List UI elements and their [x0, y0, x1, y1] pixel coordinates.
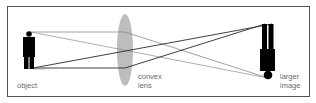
lens-label-line1: convex	[138, 72, 162, 81]
object-label: object	[17, 81, 37, 90]
image-label-line1: larger	[280, 72, 299, 81]
object-figure	[23, 31, 35, 69]
image-figure	[260, 24, 275, 79]
image-label-line2: image	[280, 81, 300, 90]
lens-label-line2: lens	[138, 81, 152, 90]
ray-bottom-center	[33, 24, 272, 68]
ray-diagram	[0, 0, 316, 103]
